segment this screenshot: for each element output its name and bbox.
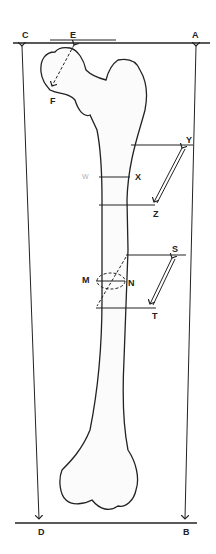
yz-arrow-2 [157, 149, 185, 203]
label-e: E [70, 31, 76, 40]
label-f: F [50, 97, 56, 106]
label-s: S [172, 245, 178, 254]
yz-arrow [154, 148, 182, 202]
ab-arrow [185, 46, 196, 519]
label-c: C [22, 31, 29, 40]
st-arrow [150, 258, 172, 304]
cd-arrow [22, 46, 39, 519]
femur-diagram [0, 0, 216, 554]
st-arrow-2 [153, 259, 175, 305]
label-t: T [152, 312, 158, 321]
label-n: N [128, 279, 135, 288]
label-y: Y [186, 136, 192, 145]
label-m: M [82, 276, 90, 285]
label-b: B [183, 528, 190, 537]
label-w: W [82, 173, 89, 180]
label-x: X [135, 173, 141, 182]
label-a: A [192, 31, 199, 40]
label-d: D [38, 528, 45, 537]
label-z: Z [153, 210, 159, 219]
